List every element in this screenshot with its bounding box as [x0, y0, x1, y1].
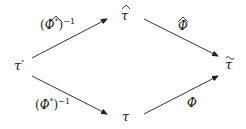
node-tau-tilde: τ: [225, 58, 232, 71]
label-inverse-phi-hat-star: (Φ*)−1: [40, 18, 75, 31]
arrow-tau-to-tau-tilde: [144, 76, 218, 114]
node-tau-prime: τ′: [14, 59, 24, 72]
node-tau: τ: [122, 110, 129, 123]
label-phi: Φ: [187, 97, 197, 109]
commutative-diagram: τ′ τ τ τ (Φ*)−1 Φ (Φ*)−1 Φ: [0, 0, 246, 129]
label-inverse-phi-star: (Φ*)−1: [35, 98, 70, 111]
node-tau-hat: τ: [121, 9, 128, 22]
label-phi-hat: Φ: [178, 20, 188, 32]
